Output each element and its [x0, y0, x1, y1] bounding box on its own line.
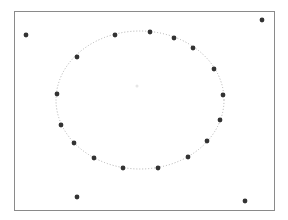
- ellipse-fit-diagram: [0, 0, 288, 220]
- ellipse-data-point: [186, 155, 191, 160]
- outlier-data-point: [75, 195, 80, 200]
- ellipse-data-point: [156, 166, 161, 171]
- ellipse-data-point: [59, 123, 64, 128]
- fitted-ellipse: [56, 31, 224, 169]
- ellipse-data-point: [72, 141, 77, 146]
- ellipse-data-point: [121, 166, 126, 171]
- ellipse-data-point: [172, 36, 177, 41]
- outlier-points-group: [24, 18, 265, 204]
- ellipse-data-point: [205, 139, 210, 144]
- ellipse-data-point: [55, 92, 60, 97]
- ellipse-data-point: [218, 118, 223, 123]
- ellipse-data-point: [113, 33, 118, 38]
- ellipse-data-point: [191, 46, 196, 51]
- ellipse-data-point: [75, 55, 80, 60]
- outlier-data-point: [24, 33, 29, 38]
- ellipse-points-group: [55, 30, 226, 171]
- ellipse-data-point: [221, 93, 226, 98]
- ellipse-data-point: [212, 67, 217, 72]
- outlier-data-point: [260, 18, 265, 23]
- ellipse-center-mark: [136, 85, 139, 88]
- plot-frame: [15, 12, 275, 211]
- ellipse-data-point: [92, 156, 97, 161]
- outlier-data-point: [243, 199, 248, 204]
- ellipse-data-point: [148, 30, 153, 35]
